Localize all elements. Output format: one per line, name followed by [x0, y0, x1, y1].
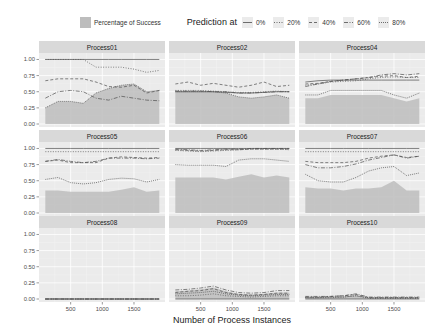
svg-text:0.00: 0.00 — [24, 296, 35, 302]
svg-text:0.75: 0.75 — [24, 73, 35, 79]
panel-strip-label: Process07 — [347, 133, 378, 140]
svg-text:0.50: 0.50 — [24, 178, 35, 184]
panel-strip-label: Process05 — [87, 133, 118, 140]
svg-text:0.50: 0.50 — [24, 89, 35, 95]
panel-process01: Process010.000.250.500.751.00 — [24, 41, 165, 127]
svg-text:0.75: 0.75 — [24, 248, 35, 254]
svg-text:1.00: 1.00 — [24, 231, 35, 237]
panel-process05: Process050.000.250.500.751.00 — [24, 130, 165, 216]
panel-strip-label: Process02 — [217, 44, 248, 51]
success-area — [175, 92, 289, 124]
svg-text:0.50: 0.50 — [24, 264, 35, 270]
x-axis-label: Number of Process Instances — [173, 315, 292, 325]
success-area — [175, 174, 289, 213]
svg-text:500: 500 — [326, 306, 336, 312]
svg-text:0.25: 0.25 — [24, 194, 35, 200]
svg-text:1.00: 1.00 — [24, 145, 35, 151]
svg-text:0.25: 0.25 — [24, 280, 35, 286]
panel-process08: Process080.000.250.500.751.0050010001500 — [24, 216, 165, 312]
svg-text:500: 500 — [66, 306, 76, 312]
panel-process09: Process0950010001500 — [169, 216, 295, 312]
svg-text:1500: 1500 — [128, 306, 141, 312]
svg-text:0.25: 0.25 — [24, 105, 35, 111]
panel-process10: Process1050010001500 — [299, 216, 425, 312]
svg-text:1000: 1000 — [356, 306, 369, 312]
panel-process06: Process06 — [169, 130, 295, 216]
svg-text:1.00: 1.00 — [24, 56, 35, 62]
svg-text:1500: 1500 — [388, 306, 401, 312]
panel-strip-label: Process09 — [217, 219, 248, 226]
svg-text:0.75: 0.75 — [24, 162, 35, 168]
svg-text:0.00: 0.00 — [24, 210, 35, 216]
panel-process02: Process02 — [169, 41, 295, 127]
svg-text:1500: 1500 — [258, 306, 271, 312]
svg-text:500: 500 — [196, 306, 206, 312]
panel-strip-label: Process08 — [87, 219, 118, 226]
panel-strip-label: Process01 — [87, 44, 118, 51]
panel-process07: Process07 — [299, 130, 425, 216]
faceted-chart: Process010.000.250.500.751.00Process02Pr… — [0, 0, 443, 330]
panel-strip-label: Process10 — [347, 219, 378, 226]
panel-strip-label: Process06 — [217, 133, 248, 140]
svg-text:1000: 1000 — [96, 306, 109, 312]
svg-text:0.00: 0.00 — [24, 121, 35, 127]
svg-text:1000: 1000 — [226, 306, 239, 312]
panel-strip-label: Process04 — [347, 44, 378, 51]
panel-process04: Process04 — [299, 41, 425, 127]
